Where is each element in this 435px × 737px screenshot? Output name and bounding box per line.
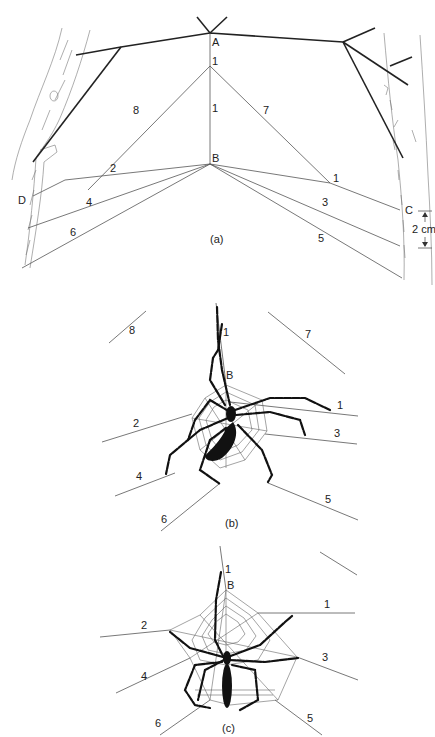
panel-caption-a: (a) [210,233,223,245]
thread-label: 1 [324,598,330,610]
thread-label: 5 [307,712,313,724]
thread-label: 1 [333,172,339,184]
right-tree-trunk [384,33,432,285]
thread-label: 7 [263,104,269,116]
thread-label: 4 [141,670,147,682]
frame-threads [33,17,412,162]
figure-canvas: A B C D 1 1 8 7 2 1 4 3 6 5 2 cm (a) [0,0,435,737]
panel-caption-b: (b) [225,517,238,529]
spider [170,572,298,710]
thread-label: 2 [141,619,147,631]
point-label-b: B [212,152,219,164]
thread-label: 6 [161,513,167,525]
thread-label: 1 [212,55,218,67]
thread-label: 3 [322,651,328,663]
spider-abdomen [222,664,232,708]
panel-b: 8 1 7 1 2 3 4 5 6 B (b) [102,303,358,531]
thread-label: 8 [133,104,139,116]
thread-label: 1 [212,102,218,114]
thread-label: 6 [70,226,76,238]
thread-label: 2 [133,417,139,429]
thread-label: 6 [155,717,161,729]
panel-c: 1 1 2 3 4 5 6 B (c) [100,546,358,735]
thread-label: 4 [136,470,142,482]
spider-cephalothorax [226,406,236,422]
point-label-b: B [227,579,234,591]
thread-label: 3 [322,196,328,208]
thread-label: 1 [337,399,343,411]
thread-label: 5 [325,493,331,505]
panel-a: A B C D 1 1 8 7 2 1 4 3 6 5 2 cm (a) [12,17,435,285]
point-label-b: B [226,369,233,381]
thread-label: 5 [318,232,324,244]
point-label-d: D [18,194,26,206]
panel-caption-c: (c) [222,722,235,734]
thread-label: 4 [86,196,92,208]
scale-bar-label: 2 cm [412,223,435,235]
thread-label: 2 [110,162,116,174]
point-label-a: A [212,36,220,48]
thread-label: 1 [225,563,231,575]
thread-label: 3 [334,427,340,439]
thread-label: 7 [305,328,311,340]
thread-label: 8 [129,324,135,336]
thread-label: 1 [223,326,229,338]
left-tree-trunk [12,28,90,268]
point-label-c: C [405,204,413,216]
spider-cephalothorax [223,651,231,665]
scale-bar: 2 cm [412,211,435,248]
